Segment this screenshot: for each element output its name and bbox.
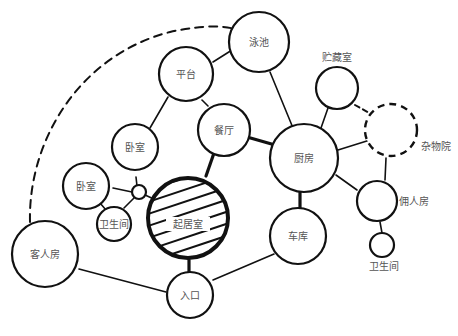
edge-dining-living [206, 153, 214, 176]
edge-kitchen-servant [336, 175, 357, 190]
edge-kitchen-yard [338, 140, 370, 150]
edge-dining-kitchen [247, 137, 275, 145]
label-bath1: 卫生间 [99, 218, 129, 230]
label-garage: 车库 [288, 230, 308, 242]
label-bedroom1: 卧室 [125, 141, 145, 153]
edge-garage-entrance [213, 254, 274, 280]
label-yard: 杂物院 [421, 140, 451, 152]
label-terrace: 平台 [176, 68, 196, 80]
label-kitchen: 厨房 [294, 152, 314, 164]
label-guest: 客人房 [30, 248, 60, 260]
node-yard [365, 104, 417, 156]
node-bath2 [370, 233, 394, 257]
edge-pool-kitchen [270, 72, 293, 128]
label-dining: 餐厅 [214, 124, 234, 136]
label-bath2: 卫生间 [369, 260, 399, 272]
node-storage [316, 67, 358, 109]
edge-storage-kitchen [321, 108, 328, 128]
edge-terrace-bedroom1 [150, 97, 168, 128]
edge-guest-entrance [79, 269, 166, 292]
bubble-diagram: 泳池 平台 贮藏室 杂物院 餐厅 卧室 卧室 厨房 起居室 卫生间 佣人房 卫生… [0, 0, 458, 336]
edge-bath1-hub [124, 198, 134, 208]
edge-terrace-dining [202, 100, 208, 106]
label-servant: 佣人房 [399, 195, 429, 207]
node-servant [357, 181, 397, 221]
label-pool: 泳池 [249, 36, 269, 48]
node-hub [132, 185, 146, 199]
label-entrance: 入口 [180, 290, 200, 301]
edge-bedroom2-hub [113, 188, 132, 192]
edge-terrace-pool [213, 50, 232, 62]
label-bedroom2: 卧室 [76, 180, 96, 192]
edge-servant-bath2 [380, 222, 382, 233]
label-living: 起居室 [173, 218, 203, 230]
label-storage: 贮藏室 [322, 51, 352, 63]
edge-yard-servant [385, 158, 386, 180]
